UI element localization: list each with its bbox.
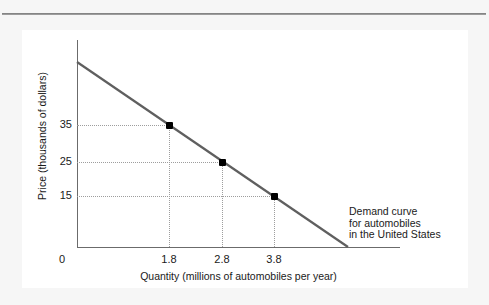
x-tick-label-1-8: 1.8 [149,254,189,265]
curve-annotation-line-1: Demand curve [349,206,441,218]
top-divider-rule [2,13,486,15]
curve-annotation-line-3: in the United States [349,229,441,241]
y-axis-title: Price (thousands of dollars) [36,56,48,216]
x-tick-label-2-8: 2.8 [202,254,242,265]
curve-annotation: Demand curve for automobiles in the Unit… [349,206,441,241]
x-axis-title: Quantity (millions of automobiles per ye… [77,270,400,282]
figure-page: 35 25 15 0 1.8 2.8 3.8 Quantity (million… [0,0,489,305]
origin-label: 0 [59,254,65,265]
y-tick-label-15: 15 [28,190,72,201]
data-point-3-8-15 [271,193,278,200]
chart-panel: 35 25 15 0 1.8 2.8 3.8 Quantity (million… [22,30,468,288]
data-point-2-8-25 [219,159,226,166]
y-tick-label-25: 25 [28,156,72,167]
x-tick-label-3-8: 3.8 [254,254,294,265]
data-point-1-8-35 [166,122,173,129]
y-tick-label-35: 35 [28,119,72,130]
demand-curve [22,30,468,288]
